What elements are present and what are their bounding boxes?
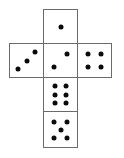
top-face (43, 9, 78, 44)
pip (58, 24, 63, 29)
pip (51, 65, 56, 70)
dice-net-diagram (0, 0, 124, 158)
pip (51, 119, 56, 124)
pip (85, 65, 90, 70)
pip (65, 51, 70, 56)
pip (52, 84, 57, 89)
pip (33, 49, 38, 54)
pip (65, 135, 70, 140)
center-face (43, 43, 78, 78)
pip (15, 67, 20, 72)
left-face (9, 43, 44, 78)
pip (52, 92, 57, 97)
pip (64, 92, 69, 97)
pip (51, 135, 56, 140)
bottom-face (43, 111, 78, 148)
pip (99, 51, 104, 56)
lower-center-face (43, 77, 78, 112)
pip (85, 51, 90, 56)
pip (99, 65, 104, 70)
pip (64, 100, 69, 105)
pip (24, 58, 29, 63)
right-face (77, 43, 112, 78)
pip (52, 100, 57, 105)
pip (64, 84, 69, 89)
pip (58, 127, 63, 132)
pip (65, 119, 70, 124)
